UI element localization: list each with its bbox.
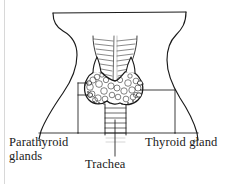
- label-parathyroid-glands: Parathyroidglands: [9, 136, 68, 163]
- label-parathyroid-line2: glands: [9, 149, 42, 163]
- thyroid-gland: [84, 57, 144, 105]
- label-trachea: Trachea: [85, 158, 126, 172]
- neck-outline: [39, 12, 198, 142]
- label-parathyroid-line1: Parathyroid: [9, 135, 68, 149]
- label-thyroid-gland: Thyroid gland: [145, 136, 217, 150]
- thyroid-leader: [143, 90, 198, 133]
- anatomy-figure: Parathyroidglands Thyroid gland Trachea: [0, 0, 232, 184]
- trachea: [105, 104, 126, 142]
